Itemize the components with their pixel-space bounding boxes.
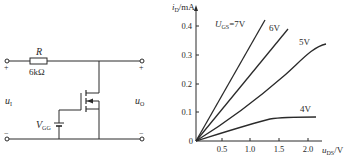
y-tick-label: 0.2 bbox=[181, 79, 192, 89]
figure: R 6kΩ + − + − uI uO VGG 0.4 0.3 0.2 0.1 … bbox=[0, 0, 353, 165]
y-tick-label: 0.4 bbox=[181, 21, 192, 31]
vgg-label: VGG bbox=[36, 119, 51, 131]
curve-label-4v: 4V bbox=[300, 104, 312, 114]
output-plus-sign: + bbox=[139, 63, 144, 72]
circuit-diagram: R 6kΩ + − + − uI uO VGG bbox=[4, 46, 145, 141]
substrate-arrow-icon bbox=[87, 99, 93, 104]
x-tick-label: 1.0 bbox=[245, 144, 256, 154]
x-tick-label: 0.5 bbox=[217, 144, 228, 154]
x-tick-label: 1.5 bbox=[274, 144, 285, 154]
chart: 0.4 0.3 0.2 0.1 0 0.5 1.0 1.5 2.0 iD/mA … bbox=[172, 2, 344, 156]
resistor bbox=[30, 58, 47, 64]
x-tick-label: 2.0 bbox=[303, 144, 314, 154]
input-minus-sign: − bbox=[4, 129, 9, 138]
y-tick-label: 0.1 bbox=[181, 107, 192, 117]
output-voltage-label: uO bbox=[135, 95, 145, 107]
resistor-label: R bbox=[35, 46, 42, 57]
y-tick-label: 0.3 bbox=[181, 50, 192, 60]
origin-label: 0 bbox=[189, 136, 193, 146]
y-axis-label: iD/mA bbox=[172, 2, 195, 13]
output-minus-sign: − bbox=[139, 129, 144, 138]
curve-ugs-5v bbox=[196, 44, 326, 141]
input-plus-sign: + bbox=[4, 63, 9, 72]
curve-label-5v: 5V bbox=[299, 37, 311, 47]
input-voltage-label: uI bbox=[5, 95, 12, 107]
resistor-value: 6kΩ bbox=[29, 67, 45, 77]
curve-label-7v: UGS=7V bbox=[215, 19, 246, 30]
curve-label-6v: 6V bbox=[269, 23, 281, 33]
x-axis-label: uDS/V bbox=[322, 145, 344, 156]
